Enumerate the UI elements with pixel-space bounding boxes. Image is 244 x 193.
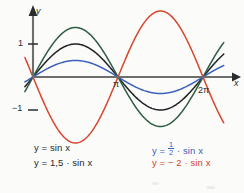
sine-amplitude-figure: y x 1 −1 π 2π y = sin x y = 1,5 · sin x …	[0, 0, 244, 193]
x-tick-label-two-pi: 2π	[198, 85, 209, 95]
y-tick-label-negative-one: −1	[12, 103, 22, 113]
legend-half-suffix: · sin x	[174, 145, 203, 156]
x-axis-label: x	[234, 78, 239, 88]
scan-speck	[152, 182, 159, 185]
legend-half-prefix: y =	[152, 145, 168, 156]
legend-item-1-5-sin-x: y = 1,5 · sin x	[34, 156, 92, 171]
y-tick-label-one: 1	[18, 38, 23, 48]
legend-right: y = 12 · sin x y = − 2 · sin x	[152, 141, 211, 171]
y-axis-label: y	[36, 6, 41, 16]
scan-speck	[206, 186, 215, 189]
x-tick-label-pi: π	[113, 79, 119, 89]
legend-left: y = sin x y = 1,5 · sin x	[34, 141, 92, 171]
legend-item-sin-x: y = sin x	[34, 141, 92, 156]
legend-item-minus-two-sin-x: y = − 2 · sin x	[152, 156, 211, 171]
fraction-one-half: 12	[168, 141, 173, 157]
legend-item-half-sin-x: y = 12 · sin x	[152, 141, 211, 156]
